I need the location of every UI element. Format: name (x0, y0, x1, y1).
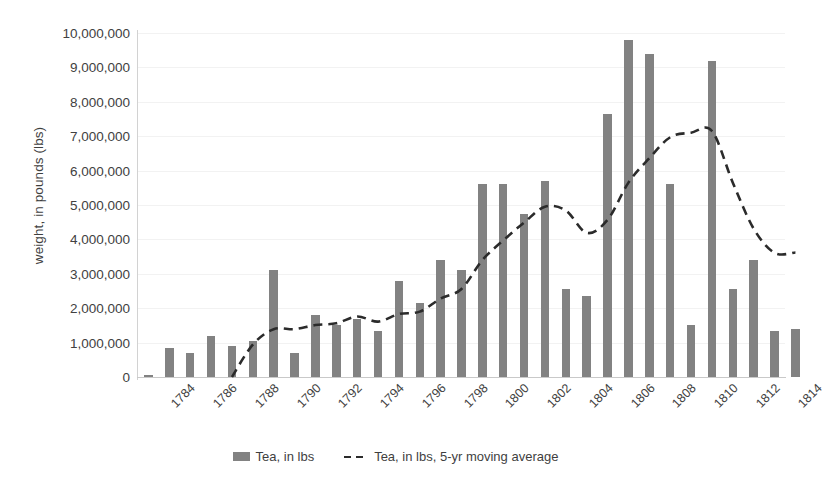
y-axis-tick-label: 0 (25, 370, 130, 385)
x-axis-tick-label: 1786 (210, 381, 240, 411)
x-axis-tick-label: 1800 (503, 381, 533, 411)
moving-average-path (232, 128, 796, 377)
dashed-line-swatch-icon (344, 456, 368, 458)
y-axis-tick-labels: 10,000,0009,000,0008,000,0007,000,0006,0… (22, 0, 130, 483)
legend-item-moving-average: Tea, in lbs, 5-yr moving average (344, 449, 558, 464)
plot-area (138, 33, 785, 377)
x-axis-tick-labels: 1784178617881790179217941796179818001802… (138, 381, 785, 451)
chart-legend: Tea, in lbs Tea, in lbs, 5-yr moving ave… (0, 449, 791, 464)
x-axis-tick-label: 1804 (586, 381, 616, 411)
y-axis-tick-label: 4,000,000 (25, 232, 130, 247)
y-axis-tick-label: 5,000,000 (25, 198, 130, 213)
x-axis-tick-label: 1784 (169, 381, 199, 411)
y-axis-tick-label: 7,000,000 (25, 129, 130, 144)
bar-swatch-icon (233, 452, 250, 461)
bar (791, 329, 800, 377)
y-axis-tick-label: 1,000,000 (25, 335, 130, 350)
y-axis-tick-label: 8,000,000 (25, 94, 130, 109)
x-axis-tick-label: 1796 (419, 381, 449, 411)
x-axis-tick-label: 1814 (795, 381, 824, 411)
x-axis-tick-label: 1792 (336, 381, 366, 411)
y-axis-tick-label: 9,000,000 (25, 60, 130, 75)
y-axis-tick-label: 2,000,000 (25, 301, 130, 316)
x-axis-tick-label: 1812 (753, 381, 783, 411)
legend-label-bars: Tea, in lbs (256, 449, 315, 464)
x-axis-tick-label: 1788 (252, 381, 282, 411)
y-axis-tick-label: 3,000,000 (25, 266, 130, 281)
x-axis-tick-label: 1806 (628, 381, 658, 411)
x-axis-tick-label: 1790 (294, 381, 324, 411)
x-axis-line (137, 377, 786, 378)
x-axis-tick-label: 1810 (711, 381, 741, 411)
x-axis-tick-label: 1798 (461, 381, 491, 411)
legend-item-bars: Tea, in lbs (233, 449, 315, 464)
legend-label-moving-average: Tea, in lbs, 5-yr moving average (374, 449, 558, 464)
y-axis-tick-label: 6,000,000 (25, 163, 130, 178)
moving-average-line (138, 33, 785, 377)
x-axis-tick-label: 1794 (377, 381, 407, 411)
y-axis-tick-label: 10,000,000 (25, 26, 130, 41)
x-axis-tick-label: 1808 (669, 381, 699, 411)
x-axis-tick-label: 1802 (544, 381, 574, 411)
